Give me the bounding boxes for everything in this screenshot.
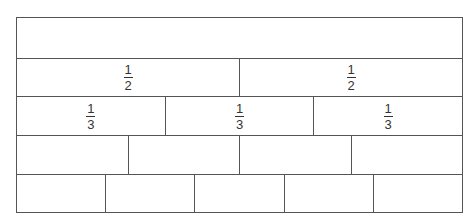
numerator: 1 (236, 102, 243, 115)
denominator: 2 (347, 79, 354, 92)
fraction-label: 13 (86, 102, 95, 131)
cell-whole (17, 18, 462, 58)
cell-third: 13 (165, 97, 314, 135)
numerator: 1 (87, 102, 94, 115)
denominator: 3 (385, 118, 392, 131)
numerator: 1 (124, 63, 131, 76)
row-whole (17, 18, 462, 58)
fraction-label: 12 (347, 63, 356, 92)
cell-half: 12 (17, 59, 239, 96)
cell-fourth (17, 136, 128, 174)
cell-fourth (128, 136, 240, 174)
numerator: 1 (385, 102, 392, 115)
denominator: 3 (236, 118, 243, 131)
cell-half: 12 (239, 59, 462, 96)
fraction-label: 13 (384, 102, 393, 131)
row-halves: 12 12 (17, 58, 462, 96)
numerator: 1 (347, 63, 354, 76)
cell-third: 13 (17, 97, 165, 135)
cell-fifth (17, 175, 105, 212)
row-thirds: 13 13 13 (17, 96, 462, 135)
cell-fifth (373, 175, 462, 212)
cell-fifth (284, 175, 373, 212)
cell-fourth (239, 136, 351, 174)
cell-fifth (194, 175, 283, 212)
cell-third: 13 (313, 97, 462, 135)
cell-fifth (105, 175, 194, 212)
cell-fourth (351, 136, 463, 174)
fraction-label: 13 (235, 102, 244, 131)
fraction-wall: 12 12 13 13 13 (16, 17, 463, 213)
row-fourths (17, 135, 462, 174)
denominator: 3 (87, 118, 94, 131)
row-fifths (17, 174, 462, 212)
denominator: 2 (124, 79, 131, 92)
fraction-label: 12 (124, 63, 133, 92)
